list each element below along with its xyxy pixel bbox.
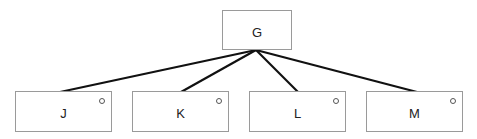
edge-g-j (60, 50, 256, 92)
node-m-label: M (409, 106, 420, 121)
node-m: M (366, 91, 463, 132)
node-l-label: L (294, 106, 301, 121)
edge-g-m (256, 50, 417, 92)
node-g: G (222, 10, 292, 50)
edge-g-k (181, 50, 256, 92)
node-j-label: J (60, 106, 67, 121)
node-k-label: K (176, 106, 185, 121)
node-g-label: G (252, 25, 262, 40)
circle-marker-icon (216, 98, 222, 104)
node-j: J (15, 91, 112, 132)
circle-marker-icon (99, 98, 105, 104)
circle-marker-icon (450, 98, 456, 104)
node-l: L (249, 91, 346, 132)
circle-marker-icon (333, 98, 339, 104)
node-k: K (132, 91, 229, 132)
